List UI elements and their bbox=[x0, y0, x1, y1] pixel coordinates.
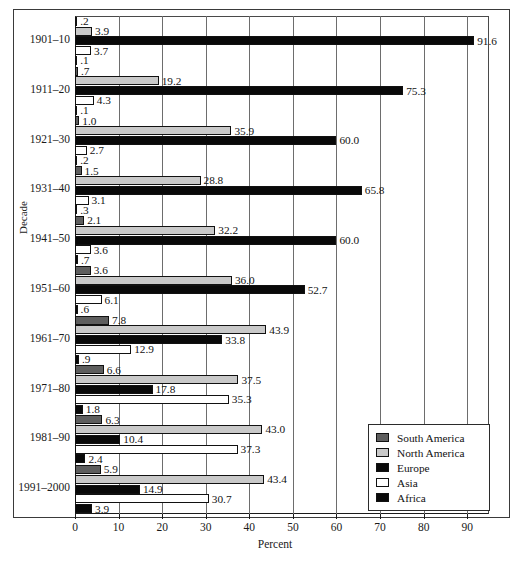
bar-value-label: 37.3 bbox=[238, 443, 261, 455]
bar-value-label: 4.3 bbox=[94, 94, 111, 106]
bar-north-america-1981–90[interactable] bbox=[75, 425, 262, 434]
bar-row: 43.9 bbox=[75, 325, 489, 334]
x-tick-label-20: 20 bbox=[142, 521, 182, 533]
bar-value-label: 91.6 bbox=[474, 35, 497, 47]
x-tick-label-40: 40 bbox=[229, 521, 269, 533]
bar-row: 36.0 bbox=[75, 276, 489, 285]
bar-value-label: .2 bbox=[77, 15, 88, 27]
bar-value-label: 1.0 bbox=[79, 115, 96, 127]
x-tick-mark-80 bbox=[424, 514, 425, 519]
bar-africa-1971–80[interactable] bbox=[75, 405, 83, 414]
bar-north-america-1941–50[interactable] bbox=[75, 226, 215, 235]
bar-south-america-1981–90[interactable] bbox=[75, 415, 102, 424]
bar-row: .2 bbox=[75, 156, 489, 165]
bar-row: 4.3 bbox=[75, 96, 489, 105]
bar-value-label: 2.1 bbox=[84, 214, 101, 226]
bar-europe-1921–30[interactable] bbox=[75, 136, 336, 145]
bar-north-america-1951–60[interactable] bbox=[75, 276, 232, 285]
bar-value-label: 43.4 bbox=[264, 473, 287, 485]
bar-south-america-1961–70[interactable] bbox=[75, 316, 109, 325]
bar-south-america-1941–50[interactable] bbox=[75, 216, 84, 225]
bar-value-label: 36.0 bbox=[232, 274, 255, 286]
bar-value-label: 2.7 bbox=[87, 144, 104, 156]
legend-item-south-america[interactable]: South America bbox=[376, 430, 483, 445]
bar-row: 1.8 bbox=[75, 405, 489, 414]
bar-value-label: 7.8 bbox=[109, 314, 126, 326]
x-tick-label-70: 70 bbox=[360, 521, 400, 533]
legend-item-europe[interactable]: Europe bbox=[376, 460, 483, 475]
bar-value-label: 3.9 bbox=[92, 25, 109, 37]
x-tick-mark-50 bbox=[293, 514, 294, 519]
bar-value-label: 1.5 bbox=[82, 164, 99, 176]
x-tick-mark-40 bbox=[249, 514, 250, 519]
bar-south-america-1971–80[interactable] bbox=[75, 365, 104, 374]
bar-value-label: 3.6 bbox=[91, 264, 108, 276]
bar-row: 3.9 bbox=[75, 27, 489, 36]
legend-label-europe: Europe bbox=[397, 462, 430, 474]
bar-value-label: 6.3 bbox=[102, 413, 119, 425]
bar-europe-1991–2000[interactable] bbox=[75, 485, 140, 494]
bar-value-label: 43.0 bbox=[262, 423, 285, 435]
decade-label-1991–2000: 1991–2000 bbox=[18, 481, 70, 493]
bar-row: 65.8 bbox=[75, 186, 489, 195]
bar-row: 75.3 bbox=[75, 86, 489, 95]
bar-south-america-1991–2000[interactable] bbox=[75, 465, 101, 474]
legend-item-africa[interactable]: Africa bbox=[376, 490, 483, 505]
bar-europe-1911–20[interactable] bbox=[75, 86, 403, 95]
bar-value-label: 37.5 bbox=[238, 373, 261, 385]
bar-africa-1991–2000[interactable] bbox=[75, 504, 92, 513]
legend-swatch-icon-asia bbox=[376, 478, 389, 487]
bar-south-america-1951–60[interactable] bbox=[75, 266, 91, 275]
x-tick-label-60: 60 bbox=[316, 521, 356, 533]
bar-north-america-1921–30[interactable] bbox=[75, 126, 231, 135]
x-tick-mark-30 bbox=[206, 514, 207, 519]
bar-value-label: 17.8 bbox=[153, 383, 176, 395]
bar-north-america-1911–20[interactable] bbox=[75, 76, 159, 85]
bar-row: 52.7 bbox=[75, 285, 489, 294]
bar-value-label: 35.9 bbox=[231, 124, 254, 136]
legend-swatch-icon-africa bbox=[376, 493, 389, 502]
bar-africa-1981–90[interactable] bbox=[75, 454, 85, 463]
decade-label-1921–30: 1921–30 bbox=[30, 133, 70, 145]
bar-north-america-1901–10[interactable] bbox=[75, 27, 92, 36]
bar-row: .3 bbox=[75, 205, 489, 214]
x-tick-label-0: 0 bbox=[55, 521, 95, 533]
bar-row: 60.0 bbox=[75, 236, 489, 245]
bar-europe-1931–40[interactable] bbox=[75, 186, 362, 195]
bar-row: 1.5 bbox=[75, 166, 489, 175]
bar-value-label: 60.0 bbox=[336, 234, 359, 246]
bar-row: .7 bbox=[75, 67, 489, 76]
decade-label-1901–10: 1901–10 bbox=[30, 33, 70, 45]
bar-value-label: 52.7 bbox=[305, 284, 328, 296]
bar-europe-1981–90[interactable] bbox=[75, 435, 120, 444]
x-tick-mark-10 bbox=[119, 514, 120, 519]
decade-label-1941–50: 1941–50 bbox=[30, 232, 70, 244]
figure-root: Decade .23.991.63.7.1.719.275.34.3.11.03… bbox=[0, 0, 524, 588]
bar-value-label: 14.9 bbox=[140, 483, 163, 495]
decade-label-1981–90: 1981–90 bbox=[30, 431, 70, 443]
bar-row: 3.6 bbox=[75, 266, 489, 275]
bar-row: .7 bbox=[75, 255, 489, 264]
x-tick-mark-60 bbox=[336, 514, 337, 519]
legend: South America North America Europe Asia … bbox=[368, 424, 490, 511]
bar-north-america-1991–2000[interactable] bbox=[75, 475, 264, 484]
bar-value-label: 10.4 bbox=[120, 433, 143, 445]
legend-item-asia[interactable]: Asia bbox=[376, 475, 483, 490]
bar-row: 60.0 bbox=[75, 136, 489, 145]
decade-label-1971–80: 1971–80 bbox=[30, 382, 70, 394]
bar-row: 35.3 bbox=[75, 395, 489, 404]
bar-row: 3.6 bbox=[75, 245, 489, 254]
bar-value-label: 6.6 bbox=[104, 364, 121, 376]
decade-label-1931–40: 1931–40 bbox=[30, 182, 70, 194]
bar-europe-1901–10[interactable] bbox=[75, 36, 474, 45]
bar-row: 19.2 bbox=[75, 76, 489, 85]
bar-europe-1971–80[interactable] bbox=[75, 385, 153, 394]
bar-value-label: 28.8 bbox=[201, 174, 224, 186]
bar-row: .2 bbox=[75, 17, 489, 26]
bar-row: 32.2 bbox=[75, 226, 489, 235]
bar-europe-1941–50[interactable] bbox=[75, 236, 336, 245]
bar-north-america-1931–40[interactable] bbox=[75, 176, 201, 185]
legend-item-north-america[interactable]: North America bbox=[376, 445, 483, 460]
bar-row: .1 bbox=[75, 56, 489, 65]
bar-row: 2.7 bbox=[75, 146, 489, 155]
